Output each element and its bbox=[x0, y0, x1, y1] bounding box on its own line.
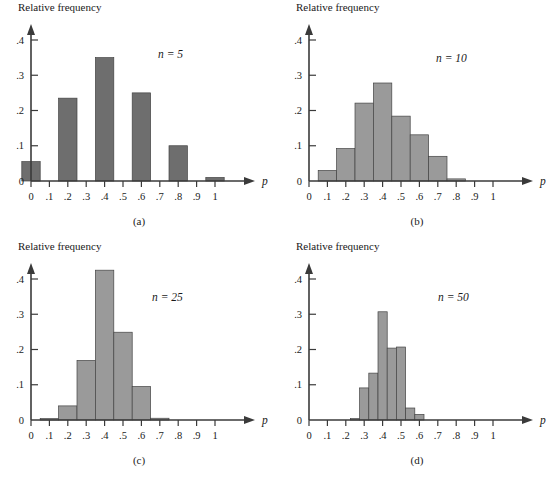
y-tick-label: 0 bbox=[297, 176, 302, 187]
panel-caption-b: (b) bbox=[278, 215, 556, 227]
x-tick-label: .8 bbox=[174, 191, 182, 202]
x-tick-label: .6 bbox=[137, 191, 145, 202]
x-tick-label: 0 bbox=[306, 430, 311, 441]
y-tick-label: .1 bbox=[16, 140, 24, 151]
x-tick-label: .5 bbox=[397, 191, 405, 202]
x-tick-label: .2 bbox=[64, 430, 72, 441]
x-tick-label: .9 bbox=[193, 191, 201, 202]
x-axis-arrow bbox=[522, 177, 533, 185]
y-axis-arrow bbox=[27, 24, 35, 35]
x-tick-label: .5 bbox=[119, 191, 127, 202]
histogram-bar bbox=[169, 146, 187, 181]
panel-b: Relative frequency n = 10 0.1.2.3.40.1.2… bbox=[278, 0, 556, 239]
panel-caption-c: (c) bbox=[0, 454, 278, 466]
x-tick-label: .6 bbox=[415, 191, 423, 202]
histogram-bar bbox=[77, 360, 95, 420]
histogram-plot-d: 0.1.2.3.40.1.2.3.4.5.6.7.8.91p bbox=[278, 239, 556, 478]
histogram-bar bbox=[114, 332, 132, 420]
histogram-bar bbox=[410, 135, 428, 181]
x-tick-label: .8 bbox=[452, 430, 460, 441]
histogram-bar bbox=[429, 156, 447, 181]
histogram-bar bbox=[392, 116, 410, 181]
y-tick-label: .3 bbox=[294, 309, 302, 320]
x-tick-label: 1 bbox=[490, 430, 495, 441]
x-tick-label: .8 bbox=[174, 430, 182, 441]
y-tick-label: .2 bbox=[16, 344, 24, 355]
histogram-plot-c: 0.1.2.3.40.1.2.3.4.5.6.7.8.91p bbox=[0, 239, 278, 478]
x-tick-label: .2 bbox=[64, 191, 72, 202]
y-tick-label: .4 bbox=[294, 35, 303, 46]
histogram-bar bbox=[132, 93, 150, 181]
y-tick-label: .4 bbox=[16, 35, 25, 46]
x-tick-label: .9 bbox=[193, 430, 201, 441]
x-tick-label: .9 bbox=[471, 430, 479, 441]
x-tick-label: .1 bbox=[45, 430, 53, 441]
x-axis-arrow bbox=[522, 416, 533, 424]
histogram-bar bbox=[132, 387, 150, 420]
y-tick-label: .4 bbox=[294, 274, 303, 285]
y-axis-arrow bbox=[27, 263, 35, 274]
histogram-bar bbox=[373, 83, 391, 181]
x-tick-label: .7 bbox=[434, 191, 442, 202]
x-axis-arrow bbox=[244, 177, 255, 185]
panel-caption-d: (d) bbox=[278, 454, 556, 466]
panel-c: Relative frequency n = 25 0.1.2.3.40.1.2… bbox=[0, 239, 278, 478]
y-tick-label: .1 bbox=[16, 379, 24, 390]
histogram-bar bbox=[387, 348, 396, 420]
y-tick-label: 0 bbox=[297, 415, 302, 426]
x-tick-label: 1 bbox=[212, 430, 217, 441]
histogram-bar bbox=[337, 149, 355, 181]
x-tick-label: 0 bbox=[28, 430, 33, 441]
x-tick-label: .4 bbox=[379, 191, 388, 202]
x-tick-label: .3 bbox=[82, 191, 90, 202]
x-tick-label: .3 bbox=[360, 430, 368, 441]
x-axis-arrow bbox=[244, 416, 255, 424]
panel-a: Relative frequency n = 5 0.1.2.3.40.1.2.… bbox=[0, 0, 278, 239]
x-tick-label: .6 bbox=[415, 430, 423, 441]
x-tick-label: .4 bbox=[379, 430, 388, 441]
histogram-plot-b: 0.1.2.3.40.1.2.3.4.5.6.7.8.91p bbox=[278, 0, 556, 239]
x-tick-label: .6 bbox=[137, 430, 145, 441]
x-tick-label: .3 bbox=[82, 430, 90, 441]
x-axis-symbol-label: p bbox=[539, 175, 546, 188]
x-tick-label: .7 bbox=[156, 191, 164, 202]
y-tick-label: .3 bbox=[16, 70, 24, 81]
x-axis-symbol-label: p bbox=[261, 175, 268, 188]
x-tick-label: .3 bbox=[360, 191, 368, 202]
y-tick-label: .1 bbox=[294, 140, 302, 151]
x-tick-label: .5 bbox=[397, 430, 405, 441]
x-tick-label: .7 bbox=[434, 430, 442, 441]
figure-four-histograms: Relative frequency n = 5 0.1.2.3.40.1.2.… bbox=[0, 0, 556, 478]
x-tick-label: .8 bbox=[452, 191, 460, 202]
histogram-bar bbox=[59, 406, 77, 420]
y-axis-arrow bbox=[305, 263, 313, 274]
y-tick-label: 0 bbox=[19, 176, 24, 187]
x-tick-label: 0 bbox=[306, 191, 311, 202]
panel-d: Relative frequency n = 50 0.1.2.3.40.1.2… bbox=[278, 239, 556, 478]
y-tick-label: .2 bbox=[294, 344, 302, 355]
histogram-bar bbox=[396, 347, 405, 420]
histogram-bar bbox=[95, 58, 113, 181]
x-tick-label: 1 bbox=[490, 191, 495, 202]
y-tick-label: .1 bbox=[294, 379, 302, 390]
y-axis-arrow bbox=[305, 24, 313, 35]
x-tick-label: .5 bbox=[119, 430, 127, 441]
y-tick-label: .4 bbox=[16, 274, 25, 285]
x-tick-label: .1 bbox=[323, 191, 331, 202]
y-tick-label: .2 bbox=[16, 105, 24, 116]
histogram-bar bbox=[369, 373, 378, 420]
x-tick-label: .1 bbox=[323, 430, 331, 441]
x-tick-label: 0 bbox=[28, 191, 33, 202]
y-tick-label: .2 bbox=[294, 105, 302, 116]
x-axis-symbol-label: p bbox=[539, 414, 546, 427]
x-tick-label: .2 bbox=[342, 430, 350, 441]
x-axis-symbol-label: p bbox=[261, 414, 268, 427]
histogram-bar bbox=[360, 388, 369, 420]
y-tick-label: .3 bbox=[16, 309, 24, 320]
histogram-bar bbox=[378, 312, 387, 420]
panel-caption-a: (a) bbox=[0, 215, 278, 227]
y-tick-label: .3 bbox=[294, 70, 302, 81]
x-tick-label: .2 bbox=[342, 191, 350, 202]
x-tick-label: .4 bbox=[101, 430, 110, 441]
histogram-bar bbox=[59, 98, 77, 181]
